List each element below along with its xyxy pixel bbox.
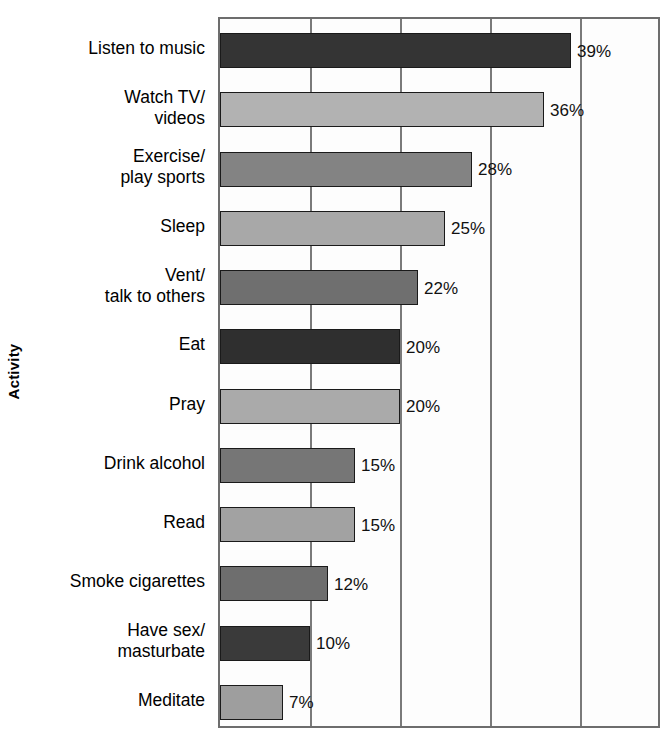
- bar-value-label: 36%: [550, 102, 584, 119]
- category-label: Meditate: [0, 690, 205, 711]
- category-label-line1: Sleep: [160, 216, 205, 236]
- category-label-line1: Have sex/: [127, 620, 205, 640]
- bar: [220, 33, 571, 68]
- bar: [220, 566, 328, 601]
- category-label-line1: Exercise/: [133, 146, 205, 166]
- category-label-line1: Listen to music: [88, 38, 205, 58]
- category-label: Pray: [0, 394, 205, 415]
- bar-value-label: 10%: [316, 635, 350, 652]
- category-label-line1: Smoke cigarettes: [70, 571, 205, 591]
- category-label-line1: Eat: [179, 334, 205, 354]
- bar-value-label: 12%: [334, 576, 368, 593]
- bar: [220, 329, 400, 364]
- category-label: Watch TV/videos: [0, 87, 205, 129]
- bar: [220, 507, 355, 542]
- bar: [220, 685, 283, 720]
- category-label-line1: Drink alcohol: [104, 453, 205, 473]
- category-label: Read: [0, 512, 205, 533]
- category-label-line1: Vent/: [165, 265, 205, 285]
- bar-value-label: 15%: [361, 457, 395, 474]
- category-label-column: Listen to musicWatch TV/videosExercise/p…: [0, 17, 212, 728]
- bar-value-label: 20%: [406, 398, 440, 415]
- bar: [220, 152, 472, 187]
- bar-value-label: 39%: [577, 43, 611, 60]
- category-label-line2: talk to others: [0, 286, 205, 307]
- bar: [220, 270, 418, 305]
- category-label-line2: videos: [0, 108, 205, 129]
- category-label-line1: Meditate: [138, 690, 205, 710]
- bar: [220, 448, 355, 483]
- category-label: Drink alcohol: [0, 453, 205, 474]
- category-label-line1: Read: [163, 512, 205, 532]
- bar-value-label: 25%: [451, 220, 485, 237]
- category-label: Exercise/play sports: [0, 146, 205, 188]
- bar: [220, 211, 445, 246]
- plot-area: 39%36%28%25%22%20%20%15%15%12%10%7%: [218, 17, 660, 728]
- bar: [220, 92, 544, 127]
- category-label-line2: masturbate: [0, 641, 205, 662]
- bar: [220, 389, 400, 424]
- category-label: Vent/talk to others: [0, 265, 205, 307]
- category-label-line1: Pray: [169, 394, 205, 414]
- category-label: Listen to music: [0, 38, 205, 59]
- gridline-40: [580, 19, 582, 726]
- bar-value-label: 22%: [424, 280, 458, 297]
- category-label: Smoke cigarettes: [0, 571, 205, 592]
- category-label-line1: Watch TV/: [124, 87, 205, 107]
- bar-value-label: 20%: [406, 339, 440, 356]
- bar-value-label: 28%: [478, 161, 512, 178]
- bar-value-label: 7%: [289, 694, 314, 711]
- category-label: Eat: [0, 334, 205, 355]
- category-label: Have sex/masturbate: [0, 620, 205, 662]
- bar-value-label: 15%: [361, 517, 395, 534]
- bar-chart: Activity Listen to musicWatch TV/videosE…: [0, 0, 669, 743]
- category-label: Sleep: [0, 216, 205, 237]
- bar: [220, 626, 310, 661]
- category-label-line2: play sports: [0, 167, 205, 188]
